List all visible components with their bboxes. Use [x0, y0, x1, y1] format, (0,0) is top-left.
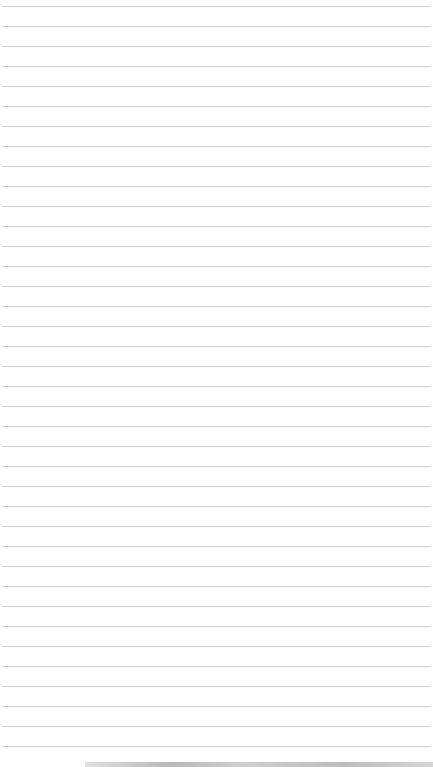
ruled-line — [2, 546, 431, 547]
ruled-line — [2, 166, 431, 167]
paper-bottom-edge-shadow — [85, 762, 433, 767]
ruled-line — [2, 446, 431, 447]
ruled-line — [2, 146, 431, 147]
ruled-line — [2, 326, 431, 327]
ruled-line — [2, 506, 431, 507]
ruled-line — [2, 426, 431, 427]
ruled-line — [2, 406, 431, 407]
ruled-line — [2, 706, 431, 707]
ruled-line — [2, 346, 431, 347]
ruled-line — [2, 106, 431, 107]
ruled-line — [2, 306, 431, 307]
ruled-line — [2, 246, 431, 247]
ruled-line — [2, 646, 431, 647]
ruled-line — [2, 526, 431, 527]
lined-paper — [0, 0, 433, 767]
ruled-line — [2, 126, 431, 127]
ruled-line — [2, 266, 431, 267]
ruled-line — [2, 226, 431, 227]
ruled-line — [2, 86, 431, 87]
ruled-line — [2, 726, 431, 727]
ruled-line — [2, 586, 431, 587]
ruled-line — [2, 286, 431, 287]
ruled-line — [2, 626, 431, 627]
ruled-line — [2, 186, 431, 187]
ruled-line — [2, 386, 431, 387]
ruled-line — [2, 686, 431, 687]
ruled-line — [2, 566, 431, 567]
ruled-line — [2, 206, 431, 207]
ruled-line — [2, 6, 431, 7]
ruled-line — [2, 746, 431, 747]
ruled-line — [2, 666, 431, 667]
ruled-line — [2, 606, 431, 607]
ruled-line — [2, 366, 431, 367]
ruled-line — [2, 66, 431, 67]
ruled-line — [2, 486, 431, 487]
ruled-line — [2, 26, 431, 27]
ruled-line — [2, 46, 431, 47]
ruled-line — [2, 466, 431, 467]
